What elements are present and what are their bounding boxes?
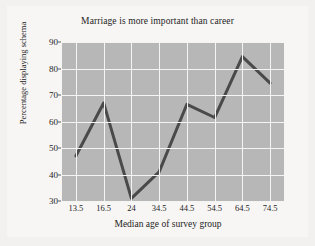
y-tick-label: 40	[36, 170, 58, 180]
series-polyline	[76, 57, 270, 199]
page-title: Marriage is more important than career	[0, 16, 315, 26]
gridline-vertical	[104, 42, 105, 201]
gridline-horizontal	[62, 175, 284, 176]
y-tick-mark	[58, 201, 61, 202]
gridline-horizontal	[62, 69, 284, 70]
y-axis-tick-labels: 30405060708090	[34, 42, 58, 201]
gridline-horizontal	[62, 42, 284, 43]
y-tick-label: 30	[36, 196, 58, 206]
gridline-horizontal	[62, 95, 284, 96]
gridline-vertical	[215, 42, 216, 201]
gridline-vertical	[187, 42, 188, 201]
gridline-vertical	[242, 42, 243, 201]
y-axis-title: Percentage displaying schema	[18, 0, 28, 153]
x-axis-title: Median age of survey group	[42, 219, 294, 229]
gridline-vertical	[76, 42, 77, 201]
y-tick-mark	[58, 42, 61, 43]
plot-area	[62, 42, 284, 201]
y-tick-label: 90	[36, 37, 58, 47]
y-tick-label: 80	[36, 64, 58, 74]
gridline-horizontal	[62, 201, 284, 202]
y-tick-mark	[58, 148, 61, 149]
y-tick-label: 50	[36, 143, 58, 153]
gridline-vertical	[159, 42, 160, 201]
y-tick-label: 60	[36, 117, 58, 127]
y-tick-mark	[58, 121, 61, 122]
y-tick-mark	[58, 174, 61, 175]
x-tick-label: 74.5	[253, 203, 287, 213]
gridline-vertical	[131, 42, 132, 201]
chart-figure: Marriage is more important than career P…	[0, 0, 315, 246]
gridline-vertical	[270, 42, 271, 201]
y-tick-mark	[58, 68, 61, 69]
x-axis-tick-labels: 13.516.52434.544.554.564.574.5	[62, 203, 284, 219]
y-tick-label: 70	[36, 90, 58, 100]
y-tick-mark	[58, 95, 61, 96]
gridline-horizontal	[62, 122, 284, 123]
gridline-horizontal	[62, 148, 284, 149]
